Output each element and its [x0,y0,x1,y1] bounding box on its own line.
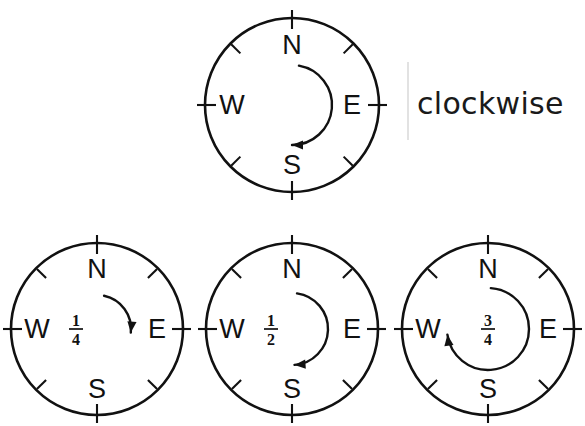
cardinal-label-west: W [219,90,245,120]
compass-rose-reference: NESW [197,10,387,200]
fraction-numerator: 1 [72,312,80,329]
fraction-numerator: 1 [267,312,275,329]
fraction-numerator: 3 [484,312,492,329]
cardinal-label-west: W [219,314,245,344]
fraction-denominator: 4 [72,331,80,348]
compass-diagram-scene: NESWNESW14NESW12NESW34 [0,0,585,426]
fraction-denominator: 2 [267,331,275,348]
cardinal-label-east: E [148,314,166,344]
cardinal-label-south: S [283,374,301,404]
cardinal-label-west: W [415,314,441,344]
cardinal-label-west: W [24,314,50,344]
worksheet-canvas: NESWNESW14NESW12NESW34 [0,0,585,426]
cardinal-label-south: S [283,150,301,180]
compass-rose-half: NESW12 [198,235,386,423]
cardinal-label-east: E [539,314,557,344]
cardinal-label-east: E [343,314,361,344]
cardinal-label-north: N [87,254,107,284]
compass-rose-quarter: NESW14 [3,235,191,423]
cardinal-label-north: N [282,254,302,284]
cardinal-label-north: N [282,30,302,60]
fraction-denominator: 4 [484,331,492,348]
cardinal-label-south: S [479,374,497,404]
clockwise-caption: clockwise [417,86,564,121]
cardinal-label-north: N [478,254,498,284]
cardinal-label-east: E [343,90,361,120]
cardinal-label-south: S [88,374,106,404]
compass-rose-three-quarter: NESW34 [394,235,582,423]
